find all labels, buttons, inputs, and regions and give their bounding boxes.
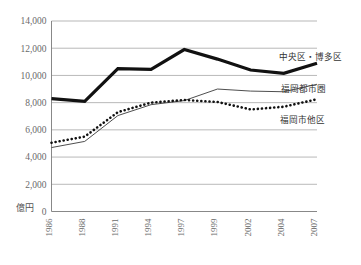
x-tick-label: 1986 xyxy=(44,218,54,237)
x-tick-label: 1999 xyxy=(209,218,219,237)
y-tick-label: 14,000 xyxy=(20,16,46,26)
x-tick-label: 2002 xyxy=(243,219,253,237)
legend-label: 福岡市他区 xyxy=(280,114,325,125)
legend-group: 中央区・博多区福岡都市圏福岡市他区 xyxy=(279,51,342,125)
y-tick-label: 6,000 xyxy=(25,125,47,135)
y-axis-tick-labels: 14,00012,00010,0008,0006,0004,0002,000 xyxy=(20,16,46,189)
series-group xyxy=(52,50,318,148)
x-tick-label: 2004 xyxy=(276,218,286,237)
x-tick-label: 1997 xyxy=(176,218,186,237)
x-tick-label: 1988 xyxy=(77,218,87,237)
chart-container: 14,00012,00010,0008,0006,0004,0002,000 1… xyxy=(0,0,361,265)
x-axis-tick-labels: 198619881991199419971999200220042007 xyxy=(44,218,320,237)
y-tick-label: 10,000 xyxy=(20,71,46,81)
y-tick-label: 2,000 xyxy=(25,180,47,190)
x-tick-label: 2007 xyxy=(309,218,319,237)
legend-label: 福岡都市圏 xyxy=(281,83,326,94)
gridlines-group xyxy=(52,21,318,184)
legend-label: 中央区・博多区 xyxy=(279,51,342,62)
x-tick-label: 1994 xyxy=(143,218,153,237)
y-axis-zero-label: 0 xyxy=(42,207,47,217)
y-tick-label: 12,000 xyxy=(20,44,46,54)
y-tick-label: 8,000 xyxy=(25,98,47,108)
x-tick-label: 1991 xyxy=(110,219,120,237)
y-axis-unit-label: 億円 xyxy=(16,202,34,213)
y-tick-label: 4,000 xyxy=(25,152,47,162)
line-chart: 14,00012,00010,0008,0006,0004,0002,000 1… xyxy=(0,0,361,265)
